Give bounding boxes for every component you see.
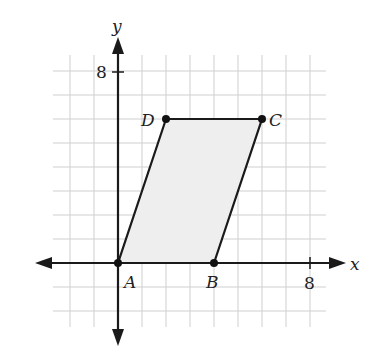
x-tick-label-8: 8 xyxy=(304,273,315,293)
y-axis-label: y xyxy=(111,16,122,36)
vertex-label-c: C xyxy=(269,110,282,130)
x-axis-right-arrow-icon xyxy=(329,257,346,269)
coordinate-plane: x y 8 8 A B C D xyxy=(0,0,381,356)
vertex-label-b: B xyxy=(205,272,219,292)
vertex-label-d: D xyxy=(140,110,155,130)
y-axis-down-arrow-icon xyxy=(112,329,124,346)
vertex-point-c xyxy=(258,115,266,123)
x-axis-label: x xyxy=(350,254,360,274)
vertex-label-a: A xyxy=(122,272,136,292)
vertex-point-a xyxy=(114,259,122,267)
vertex-point-d xyxy=(162,115,170,123)
y-tick-label-8: 8 xyxy=(96,62,107,82)
x-axis-left-arrow-icon xyxy=(35,257,52,269)
y-axis-up-arrow-icon xyxy=(112,37,124,54)
vertex-point-b xyxy=(210,259,218,267)
